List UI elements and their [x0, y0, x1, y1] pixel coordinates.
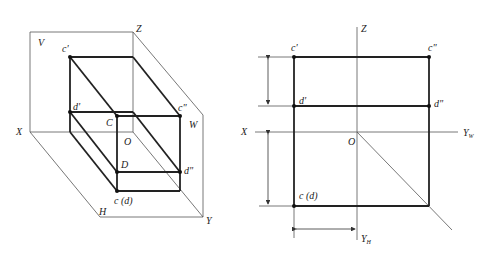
point-d-dprime — [178, 170, 182, 174]
label-c-prime: c' — [291, 42, 298, 53]
right-orthographic-diagram: Z X O YW YH c' c" d' d" c (d) — [240, 23, 475, 245]
point-d-prime — [292, 104, 296, 108]
point-d-prime — [68, 110, 72, 114]
label-c-prime: c' — [62, 43, 69, 54]
label-v-plane: V — [38, 37, 46, 48]
projection-figure: V Z X O W H Y c' d' C c" D d" c (d) — [0, 0, 489, 253]
label-c-dprime: c" — [178, 102, 187, 113]
label-y-axis: Y — [206, 215, 213, 226]
label-z-axis: Z — [361, 23, 367, 34]
point-c-dprime — [427, 55, 431, 59]
label-yw-axis: YW — [463, 127, 475, 139]
label-d-prime: d' — [299, 95, 307, 106]
point-c-prime — [292, 55, 296, 59]
label-w-plane: W — [189, 119, 199, 130]
point-cd — [292, 204, 296, 208]
label-cd: c (d) — [114, 195, 133, 207]
label-d-dprime: d" — [434, 98, 444, 109]
label-d-dprime: d" — [184, 165, 194, 176]
label-z-axis: Z — [136, 23, 142, 34]
label-origin: O — [124, 136, 131, 147]
point-c-prime — [68, 55, 72, 59]
projector-z-d-dprime — [133, 112, 180, 172]
label-h-plane: H — [98, 206, 107, 217]
left-axonometric-diagram: V Z X O W H Y c' d' C c" D d" c (d) — [15, 23, 213, 226]
point-C — [115, 114, 119, 118]
projector-z-c-dprime — [133, 57, 180, 116]
point-cd — [115, 189, 119, 193]
label-c-dprime: c" — [428, 42, 437, 53]
point-D — [115, 170, 119, 174]
point-c-dprime — [178, 114, 182, 118]
label-x-axis: X — [15, 126, 23, 137]
diagonal-45-line — [357, 132, 452, 230]
label-C: C — [106, 117, 113, 128]
label-d-prime: d' — [73, 101, 81, 112]
label-origin: O — [348, 136, 355, 147]
label-cd: c (d) — [299, 190, 318, 202]
label-D: D — [120, 159, 129, 170]
label-yh-axis: YH — [361, 233, 372, 245]
point-d-dprime — [427, 104, 431, 108]
label-x-axis: X — [240, 126, 248, 137]
